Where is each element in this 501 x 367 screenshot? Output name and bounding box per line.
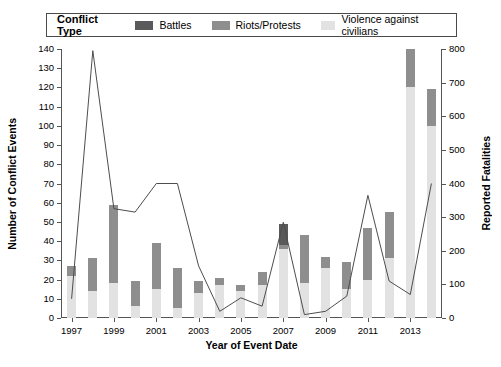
x-axis-tick-label: 2007 — [273, 325, 294, 336]
y-axis-right-tick — [442, 150, 446, 151]
y-axis-left-tick-label: 90 — [43, 140, 54, 149]
fatalities-line-path — [72, 51, 432, 315]
legend-item-violence-against-civilians: Violence against civilians — [321, 13, 436, 37]
y-axis-left-tick-label: 10 — [43, 294, 54, 303]
x-axis-tick — [199, 318, 200, 322]
x-axis-tick-label: 2009 — [315, 325, 336, 336]
y-axis-left-tick — [57, 164, 61, 165]
legend-swatch-battles — [135, 21, 153, 30]
y-axis-left-tick-label: 80 — [43, 159, 54, 168]
y-axis-left-title-text: Number of Conflict Events — [6, 118, 18, 250]
y-axis-right-tick — [442, 251, 446, 252]
y-axis-right-tick-label: 400 — [449, 179, 465, 188]
y-axis-right-tick — [442, 217, 446, 218]
y-axis-left-title: Number of Conflict Events — [5, 49, 19, 318]
y-axis-left-tick-label: 100 — [38, 121, 54, 130]
x-axis-tick-label: 2005 — [230, 325, 251, 336]
x-axis-tick — [326, 318, 327, 322]
y-axis-left-tick — [57, 280, 61, 281]
y-axis-left-tick — [57, 68, 61, 69]
x-axis-tick-label: 2001 — [146, 325, 167, 336]
fatalities-line-series — [61, 49, 442, 318]
y-axis-left-tick-label: 50 — [43, 217, 54, 226]
y-axis-left-tick — [57, 145, 61, 146]
legend-label-riots-protests: Riots/Protests — [236, 19, 301, 31]
y-axis-left-tick — [57, 260, 61, 261]
legend-swatch-riots-protests — [212, 21, 230, 30]
x-axis-tick — [156, 318, 157, 322]
x-axis-tick-label: 2013 — [400, 325, 421, 336]
y-axis-left-tick-label: 130 — [38, 63, 54, 72]
y-axis-left-tick-label: 120 — [38, 82, 54, 91]
x-axis-tick — [283, 318, 284, 322]
y-axis-right-title: Reported Fatalities — [479, 49, 493, 318]
x-axis-tick — [241, 318, 242, 322]
chart-legend: Conflict Type Battles Riots/Protests Vio… — [46, 13, 457, 37]
y-axis-left-tick-label: 70 — [43, 179, 54, 188]
y-axis-left-tick — [57, 241, 61, 242]
y-axis-left-tick — [57, 107, 61, 108]
y-axis-right-tick-label: 100 — [449, 279, 465, 288]
y-axis-left-tick — [57, 184, 61, 185]
x-axis-tick-label: 1997 — [61, 325, 82, 336]
y-axis-right-tick-label: 200 — [449, 246, 465, 255]
legend-swatch-violence-against-civilians — [321, 21, 336, 30]
y-axis-left-tick — [57, 87, 61, 88]
y-axis-right-tick — [442, 284, 446, 285]
y-axis-left-tick — [57, 126, 61, 127]
y-axis-right-tick — [442, 49, 446, 50]
legend-title: Conflict Type — [57, 13, 113, 37]
x-axis-tick-label: 1999 — [103, 325, 124, 336]
y-axis-right-tick-label: 300 — [449, 212, 465, 221]
plot-area: 0102030405060708090100110120130140010020… — [61, 49, 442, 318]
x-axis-tick — [114, 318, 115, 322]
y-axis-left-tick-label: 20 — [43, 275, 54, 284]
y-axis-left-tick-label: 60 — [43, 198, 54, 207]
y-axis-left-tick-label: 30 — [43, 255, 54, 264]
legend-item-battles: Battles — [135, 19, 191, 31]
y-axis-right-tick-label: 500 — [449, 145, 465, 154]
y-axis-right-title-text: Reported Fatalities — [480, 136, 492, 231]
x-axis-title: Year of Event Date — [61, 339, 442, 351]
y-axis-right-tick — [442, 184, 446, 185]
y-axis-left-tick-label: 0 — [49, 313, 54, 322]
y-axis-left-tick — [57, 222, 61, 223]
y-axis-left-tick — [57, 49, 61, 50]
x-axis-tick-label: 2011 — [358, 325, 378, 336]
x-axis-tick — [368, 318, 369, 322]
y-axis-left-tick — [57, 299, 61, 300]
y-axis-left-tick-label: 40 — [43, 236, 54, 245]
x-axis-tick — [72, 318, 73, 322]
legend-label-violence-against-civilians: Violence against civilians — [341, 13, 436, 37]
legend-label-battles: Battles — [159, 19, 191, 31]
y-axis-right-tick-label: 700 — [449, 78, 465, 87]
y-axis-left-tick — [57, 203, 61, 204]
y-axis-left-tick-label: 140 — [38, 44, 54, 53]
y-axis-right-tick — [442, 83, 446, 84]
y-axis-right-tick-label: 0 — [449, 313, 454, 322]
y-axis-right-tick — [442, 318, 446, 319]
y-axis-left-tick-label: 110 — [39, 102, 54, 111]
y-axis-right-tick-label: 800 — [449, 44, 465, 53]
y-axis-right-tick-label: 600 — [449, 111, 465, 120]
x-axis-tick — [410, 318, 411, 322]
y-axis-right-tick — [442, 116, 446, 117]
legend-item-riots-protests: Riots/Protests — [212, 19, 301, 31]
chart-figure: Conflict Type Battles Riots/Protests Vio… — [0, 0, 501, 367]
y-axis-left-tick — [57, 318, 61, 319]
x-axis-tick-label: 2003 — [188, 325, 209, 336]
